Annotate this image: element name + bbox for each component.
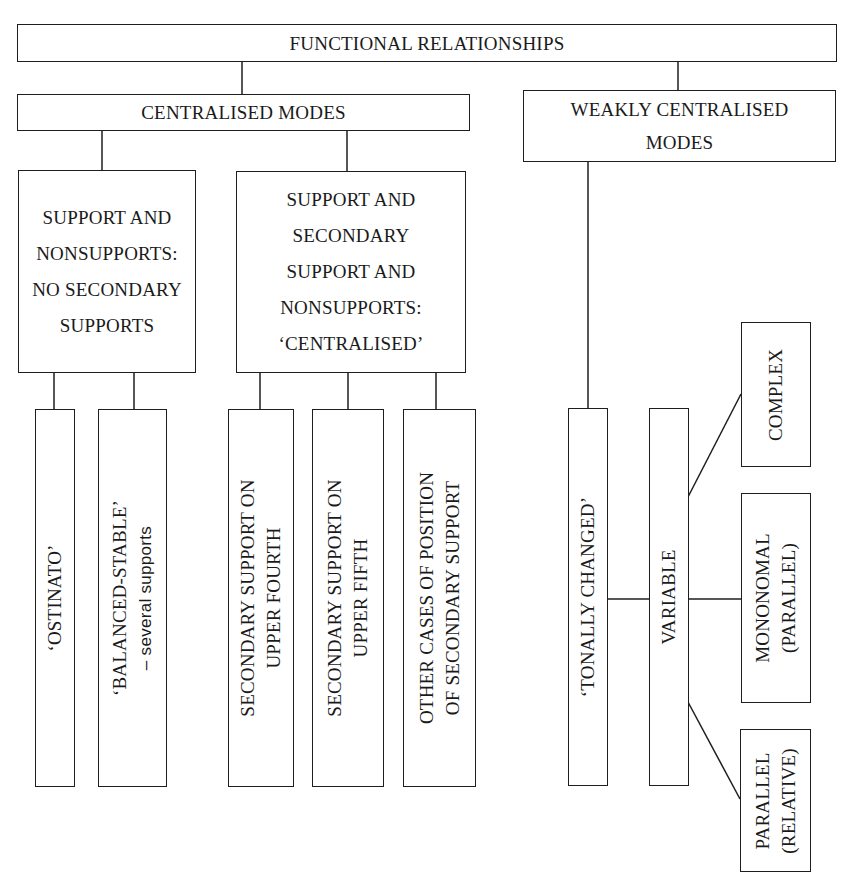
upper-fifth-label-line2: UPPER FIFTH — [348, 539, 374, 658]
root-box: FUNCTIONAL RELATIONSHIPS — [17, 24, 837, 62]
mononomal-label-line2: (PARALLEL) — [776, 543, 802, 653]
centralised-modes-label: CENTRALISED MODES — [141, 99, 346, 126]
complex-label: COMPLEX — [763, 348, 789, 440]
tonally-changed-box: ‘TONALLY CHANGED’ — [568, 408, 608, 786]
other-cases-box: OTHER CASES OF POSITION OF SECONDARY SUP… — [403, 409, 476, 787]
variable-box: VARIABLE — [649, 408, 689, 786]
complex-box: COMPLEX — [741, 322, 811, 467]
upper-fifth-label-line1: SECONDARY SUPPORT ON — [322, 479, 348, 716]
parallel-relative-box: PARALLEL (RELATIVE) — [740, 729, 811, 872]
connector-variable-parallel — [688, 702, 740, 799]
parallel-label-line2: (RELATIVE) — [776, 748, 802, 853]
balanced-stable-box: ‘BALANCED-STABLE’ – several supports — [98, 409, 167, 787]
upper-fourth-label-line2: UPPER FOURTH — [261, 527, 287, 668]
upper-fifth-box: SECONDARY SUPPORT ON UPPER FIFTH — [312, 409, 384, 787]
ostinato-label: ‘OSTINATO’ — [42, 544, 68, 651]
other-cases-label-line2: OF SECONDARY SUPPORT — [440, 481, 466, 715]
parallel-label-line1: PARALLEL — [750, 752, 776, 849]
weakly-centralised-modes-box: WEAKLY CENTRALISED MODES — [523, 90, 836, 162]
balanced-stable-sublabel: – several supports — [133, 526, 159, 670]
no-secondary-supports-box: SUPPORT AND NONSUPPORTS: NO SECONDARY SU… — [18, 170, 196, 373]
ostinato-box: ‘OSTINATO’ — [35, 409, 75, 787]
centralised-modes-box: CENTRALISED MODES — [17, 94, 470, 131]
weakly-centralised-modes-label: WEAKLY CENTRALISED MODES — [571, 93, 789, 159]
upper-fourth-label-line1: SECONDARY SUPPORT ON — [235, 479, 261, 716]
root-label: FUNCTIONAL RELATIONSHIPS — [290, 30, 565, 57]
upper-fourth-box: SECONDARY SUPPORT ON UPPER FOURTH — [228, 409, 294, 787]
variable-label: VARIABLE — [656, 549, 682, 644]
mononomal-box: MONONOMAL (PARALLEL) — [741, 493, 811, 703]
secondary-support-centralised-box: SUPPORT AND SECONDARY SUPPORT AND NONSUP… — [236, 171, 466, 373]
functional-relationships-diagram: FUNCTIONAL RELATIONSHIPS CENTRALISED MOD… — [0, 0, 846, 883]
no-secondary-supports-label: SUPPORT AND NONSUPPORTS: NO SECONDARY SU… — [32, 200, 182, 344]
balanced-stable-label: ‘BALANCED-STABLE’ — [107, 500, 133, 696]
mononomal-label-line1: MONONOMAL — [750, 533, 776, 663]
connector-variable-complex — [688, 394, 741, 497]
tonally-changed-label: ‘TONALLY CHANGED’ — [575, 497, 601, 697]
other-cases-label-line1: OTHER CASES OF POSITION — [414, 472, 440, 724]
secondary-support-centralised-label: SUPPORT AND SECONDARY SUPPORT AND NONSUP… — [278, 182, 423, 362]
